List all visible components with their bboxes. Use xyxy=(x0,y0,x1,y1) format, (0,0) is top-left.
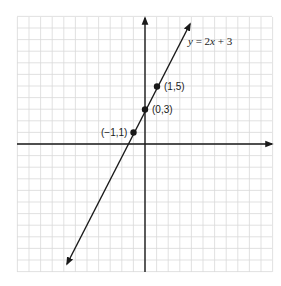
equation-label: y = 2x + 3 xyxy=(187,35,233,47)
coordinate-plane: (1,5) (0,3) (−1,1) y = 2x + 3 xyxy=(0,0,281,286)
point-1-5 xyxy=(154,83,160,89)
point-label-neg1-1: (−1,1) xyxy=(101,127,127,138)
point-neg1-1 xyxy=(130,129,136,135)
point-label-0-3: (0,3) xyxy=(152,104,173,115)
point-0-3 xyxy=(142,106,148,112)
point-label-1-5: (1,5) xyxy=(164,81,185,92)
